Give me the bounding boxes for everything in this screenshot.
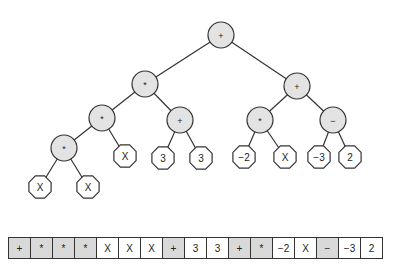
operator-node: * — [132, 71, 158, 97]
node-label: 2 — [347, 152, 353, 163]
leaf-node: X — [77, 176, 99, 198]
node-label: − — [330, 116, 335, 126]
node-label: * — [62, 144, 66, 154]
leaf-node: X — [274, 146, 296, 168]
leaf-node: −2 — [233, 146, 255, 168]
array-cell-operand: X — [141, 238, 163, 258]
operator-node: + — [167, 107, 193, 133]
operator-node: − — [320, 107, 346, 133]
array-cell-operand: X — [295, 238, 317, 258]
leaf-node: X — [114, 145, 136, 167]
leaf-node: −3 — [308, 146, 330, 168]
array-cell-operand: 3 — [185, 238, 207, 258]
array-cell-operand: 2 — [361, 238, 382, 258]
array-cell-operator: * — [53, 238, 75, 258]
node-label: X — [85, 182, 92, 193]
node-label: 3 — [160, 153, 166, 164]
node-label: + — [218, 31, 223, 41]
node-label: −3 — [313, 152, 325, 163]
node-label: * — [258, 116, 262, 126]
array-cell-operator: + — [229, 238, 251, 258]
operator-node: + — [284, 73, 310, 99]
array-cell-operand: −2 — [273, 238, 295, 258]
array-cell-operator: * — [75, 238, 97, 258]
array-cell-operand: 3 — [207, 238, 229, 258]
array-cell-operator: − — [317, 238, 339, 258]
node-label: X — [122, 151, 129, 162]
node-label: −2 — [238, 152, 250, 163]
leaf-node: X — [29, 176, 51, 198]
array-cell-operator: * — [251, 238, 273, 258]
operator-node: * — [89, 105, 115, 131]
array-cell-operand: X — [97, 238, 119, 258]
leaf-node: 3 — [152, 147, 174, 169]
tree-edge — [221, 35, 297, 86]
node-label: * — [143, 80, 147, 90]
array-cell-operator: * — [31, 238, 53, 258]
leaf-node: 3 — [190, 147, 212, 169]
linear-array: +***XXX+33+*−2X−−32 — [8, 237, 383, 259]
operator-node: * — [51, 135, 77, 161]
array-cell-operator: + — [163, 238, 185, 258]
array-cell-operand: −3 — [339, 238, 361, 258]
node-label: + — [294, 82, 299, 92]
leaf-node: 2 — [339, 146, 361, 168]
operator-node: + — [208, 22, 234, 48]
node-label: 3 — [198, 153, 204, 164]
node-label: * — [100, 114, 104, 124]
expression-tree: +***XXX+33+*−2X−−32 — [0, 0, 399, 230]
node-label: X — [282, 152, 289, 163]
array-cell-operator: + — [9, 238, 31, 258]
node-label: X — [37, 182, 44, 193]
array-cell-operand: X — [119, 238, 141, 258]
node-label: + — [177, 116, 182, 126]
operator-node: * — [247, 107, 273, 133]
